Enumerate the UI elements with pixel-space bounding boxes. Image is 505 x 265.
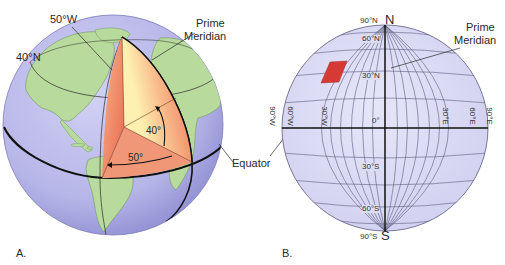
label-90e: 90°E — [485, 107, 493, 124]
label-60e: 60°E — [468, 107, 476, 124]
globe-b — [282, 25, 488, 231]
label-prime-a-line1: Prime — [196, 18, 225, 29]
label-equator: Equator — [232, 158, 271, 169]
label-prime-b-line2: Meridian — [454, 35, 496, 46]
label-0: 0° — [372, 117, 380, 125]
label-90w: 90°W — [268, 106, 276, 126]
leader-equator-a — [219, 144, 233, 162]
label-south: S — [381, 229, 390, 242]
label-90s: 90°S — [360, 233, 377, 241]
label-north: N — [385, 13, 394, 26]
label-60n: 60°N — [362, 35, 380, 43]
label-30w: 30°W — [320, 106, 328, 126]
label-30s: 30°S — [362, 163, 379, 171]
panel-b-letter: B. — [282, 248, 292, 259]
label-50w: 50°W — [50, 14, 77, 25]
panel-a-letter: A. — [16, 248, 26, 259]
label-60w: 60°W — [286, 106, 294, 126]
label-60s: 60°S — [362, 205, 379, 213]
label-prime-b-line1: Prime — [466, 22, 495, 33]
label-angle-40: 40° — [146, 126, 161, 136]
label-90n: 90°N — [360, 17, 378, 25]
globe-a-illustration — [0, 0, 505, 265]
label-30e: 30°E — [441, 107, 449, 124]
label-angle-50: 50° — [128, 153, 143, 163]
label-prime-a-line2: Meridian — [184, 31, 226, 42]
label-40n: 40°N — [16, 52, 41, 63]
label-30n: 30°N — [362, 72, 380, 80]
